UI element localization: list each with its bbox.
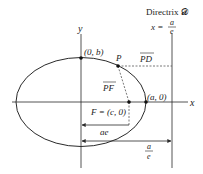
label-a-over-e-num: a — [147, 142, 151, 151]
ellipse-diagram: x y Directrix 𝓓 x = a e (0, b) P (a, 0) … — [0, 0, 203, 174]
label-0-b: (0, b) — [84, 47, 104, 57]
directrix-eq-num: a — [170, 18, 174, 27]
label-focus: F = (c, 0) — [90, 107, 126, 117]
point-0-b — [79, 56, 83, 60]
label-a-over-e-den: e — [147, 152, 151, 161]
label-a-0: (a, 0) — [147, 92, 167, 102]
label-p: P — [115, 53, 122, 63]
label-pf: PF — [102, 83, 114, 93]
directrix-eq-den: e — [170, 27, 174, 36]
label-ae: ae — [100, 127, 109, 137]
directrix-eq-lhs: x = — [150, 22, 163, 32]
directrix-title: Directrix 𝓓 — [146, 7, 189, 17]
y-axis-label: y — [77, 23, 83, 34]
point-focus — [127, 100, 131, 104]
point-p — [116, 64, 120, 68]
label-pd: PD — [139, 54, 152, 64]
x-axis-label: x — [189, 97, 195, 108]
